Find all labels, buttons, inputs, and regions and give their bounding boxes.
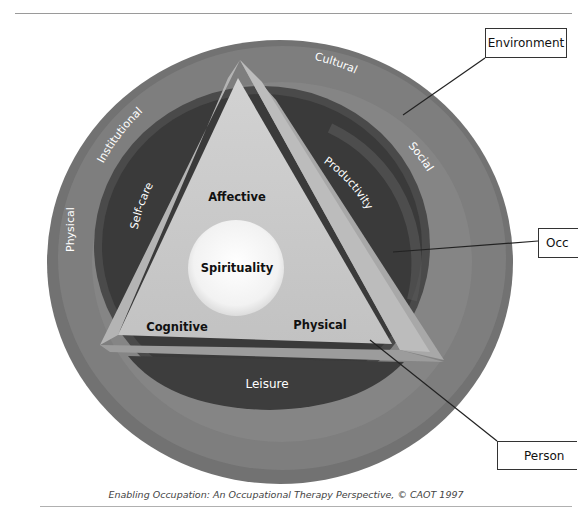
bottom-divider <box>40 506 572 507</box>
label-physical-environment: Physical <box>64 207 77 252</box>
callout-environment-text: Environment <box>488 36 565 50</box>
callout-occupation: Occ <box>538 228 578 258</box>
label-leisure: Leisure <box>245 377 288 391</box>
label-spirituality: Spirituality <box>201 261 274 275</box>
label-affective: Affective <box>208 190 266 204</box>
label-cognitive: Cognitive <box>146 320 208 334</box>
callout-occupation-text: Occ <box>546 236 569 250</box>
figure-caption: Enabling Occupation: An Occupational The… <box>0 489 572 500</box>
callout-person: Person <box>497 441 577 470</box>
label-physical-person: Physical <box>293 318 346 332</box>
callout-person-text: Person <box>524 449 564 463</box>
callout-environment: Environment <box>485 28 567 58</box>
